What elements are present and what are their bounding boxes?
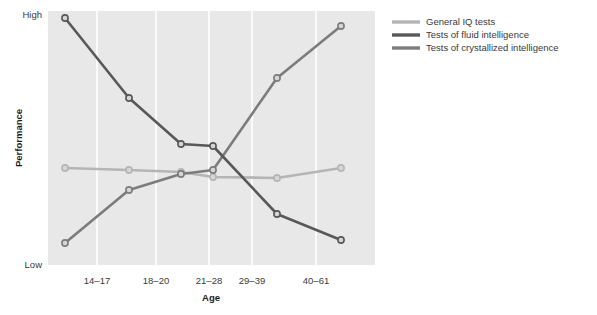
x-tick-label-0: 14–17 xyxy=(84,275,110,286)
data-point-marker xyxy=(62,240,68,246)
data-point-marker xyxy=(274,75,280,81)
data-point-marker xyxy=(126,167,132,173)
data-point-marker xyxy=(338,165,344,171)
legend-label-1: Tests of fluid intelligence xyxy=(426,29,529,40)
data-point-marker xyxy=(126,187,132,193)
data-point-marker xyxy=(178,171,184,177)
data-point-marker xyxy=(126,95,132,101)
data-point-marker xyxy=(338,237,344,243)
data-point-marker xyxy=(210,143,216,149)
data-point-marker xyxy=(178,141,184,147)
data-point-marker xyxy=(210,174,216,180)
x-axis-title: Age xyxy=(202,292,220,303)
x-tick-label-3: 29–39 xyxy=(239,275,265,286)
data-point-marker xyxy=(274,175,280,181)
data-point-marker xyxy=(274,211,280,217)
x-tick-label-1: 18–20 xyxy=(143,275,169,286)
x-tick-label-4: 40–61 xyxy=(303,275,329,286)
data-point-marker xyxy=(338,23,344,29)
y-axis-low-label: Low xyxy=(25,259,43,270)
legend-label-0: General IQ tests xyxy=(426,16,495,27)
data-point-marker xyxy=(62,15,68,21)
y-axis-high-label: High xyxy=(22,9,42,20)
legend-label-2: Tests of crystallized intelligence xyxy=(426,42,559,53)
line-chart: High Low Performance 14–1718–2021–2829–3… xyxy=(0,0,597,315)
y-axis-title: Performance xyxy=(13,109,24,167)
data-point-marker xyxy=(62,165,68,171)
data-point-marker xyxy=(210,167,216,173)
x-tick-label-2: 21–28 xyxy=(196,275,222,286)
chart-figure: High Low Performance 14–1718–2021–2829–3… xyxy=(0,0,597,315)
